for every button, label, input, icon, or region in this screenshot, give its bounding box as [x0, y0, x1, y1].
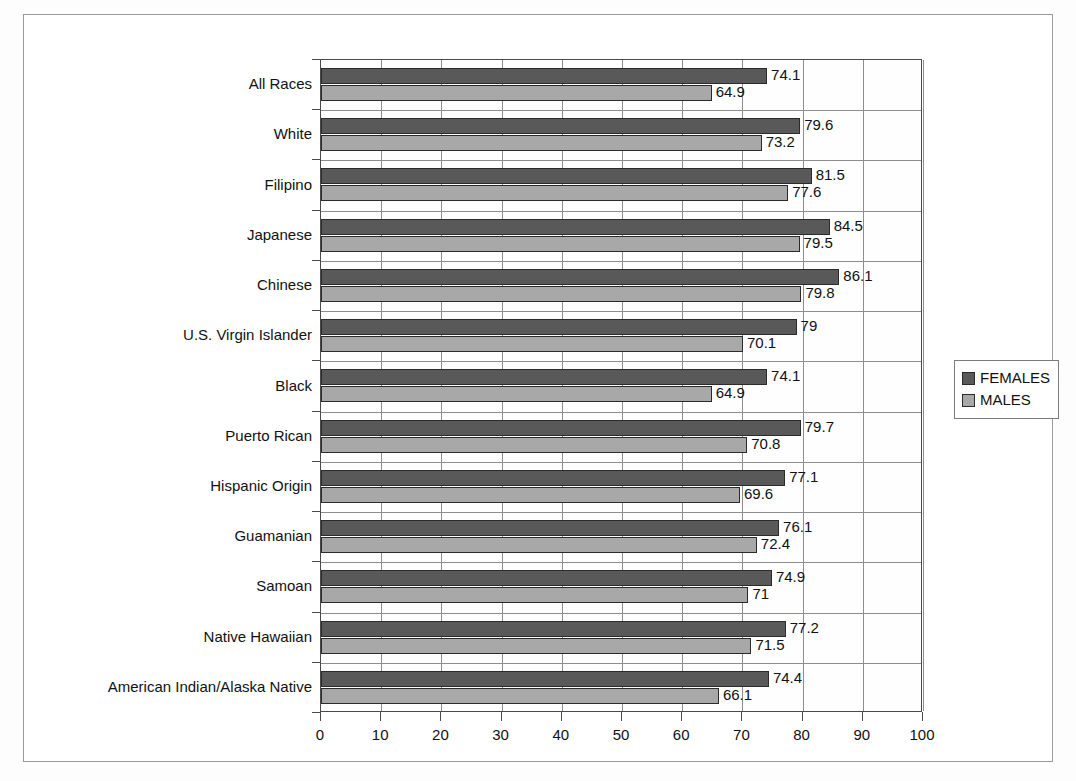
bar-value-females: 76.1	[783, 519, 812, 535]
bar-row: 81.577.6	[321, 160, 921, 210]
y-axis-label: Native Hawaiian	[24, 628, 312, 646]
y-axis-label: Hispanic Origin	[24, 477, 312, 495]
bar-males	[321, 437, 747, 453]
x-axis-ticks	[320, 712, 922, 721]
chart-figure: All RacesWhiteFilipinoJapaneseChineseU.S…	[0, 0, 1076, 781]
bar-value-females: 74.9	[776, 569, 805, 585]
y-axis-label: Guamanian	[24, 527, 312, 545]
y-axis-tick	[312, 360, 320, 361]
x-axis-tick-label: 10	[372, 725, 389, 745]
x-axis-tick	[561, 712, 562, 721]
bar-males	[321, 135, 762, 151]
bar-value-males: 71.5	[755, 637, 784, 653]
y-axis-tick	[312, 411, 320, 412]
bar-value-males: 70.1	[747, 335, 776, 351]
bar-value-females: 86.1	[843, 268, 872, 284]
bar-row: 74.164.9	[321, 361, 921, 411]
bar-row: 77.169.6	[321, 462, 921, 512]
legend-label: MALES	[980, 392, 1031, 408]
bar-males	[321, 487, 740, 503]
bar-value-males: 70.8	[751, 436, 780, 452]
bar-value-males: 64.9	[716, 84, 745, 100]
bar-females	[321, 269, 839, 285]
x-axis-tick	[501, 712, 502, 721]
x-axis-tick	[621, 712, 622, 721]
bar-value-males: 66.1	[723, 687, 752, 703]
bar-value-males: 69.6	[744, 486, 773, 502]
bar-value-females: 79.7	[805, 419, 834, 435]
bar-value-females: 74.4	[773, 670, 802, 686]
x-axis-tick-label: 60	[673, 725, 690, 745]
bar-males	[321, 236, 800, 252]
legend-label: FEMALES	[980, 370, 1050, 386]
bar-value-males: 79.8	[805, 285, 834, 301]
bar-value-females: 84.5	[834, 218, 863, 234]
x-axis-tick-labels: 0102030405060708090100	[320, 725, 922, 749]
bar-females	[321, 168, 812, 184]
y-axis-label: White	[24, 125, 312, 143]
bar-value-females: 77.2	[790, 620, 819, 636]
bar-value-males: 71	[752, 586, 769, 602]
bar-females	[321, 219, 830, 235]
bar-males	[321, 638, 751, 654]
bar-value-males: 72.4	[761, 536, 790, 552]
bar-females	[321, 621, 786, 637]
y-axis-category-labels: All RacesWhiteFilipinoJapaneseChineseU.S…	[24, 59, 312, 712]
x-axis-tick-label: 40	[552, 725, 569, 745]
x-axis-tick	[862, 712, 863, 721]
bar-value-females: 79.6	[804, 117, 833, 133]
y-axis-tick	[312, 612, 320, 613]
y-axis-tick	[312, 109, 320, 110]
y-axis-tick	[312, 210, 320, 211]
y-axis-tick	[312, 461, 320, 462]
x-axis-tick-label: 80	[793, 725, 810, 745]
legend-entry: MALES	[962, 389, 1050, 411]
y-axis-label: Japanese	[24, 226, 312, 244]
y-axis-tick	[312, 159, 320, 160]
bar-females	[321, 68, 767, 84]
legend-swatch-icon	[962, 372, 975, 385]
bar-row: 77.271.5	[321, 613, 921, 663]
bar-males	[321, 386, 712, 402]
bar-males	[321, 688, 719, 704]
bar-value-males: 77.6	[792, 184, 821, 200]
y-axis-label: American Indian/Alaska Native	[24, 678, 312, 696]
y-axis-tick	[312, 561, 320, 562]
bar-males	[321, 85, 712, 101]
figure-frame: All RacesWhiteFilipinoJapaneseChineseU.S…	[23, 14, 1053, 762]
x-axis-tick	[922, 712, 923, 721]
x-axis-tick-label: 30	[492, 725, 509, 745]
bar-row: 79.673.2	[321, 110, 921, 160]
bar-males	[321, 286, 801, 302]
bar-females	[321, 470, 785, 486]
bar-value-males: 73.2	[766, 134, 795, 150]
bar-row: 74.466.1	[321, 663, 921, 713]
y-axis-label: Black	[24, 377, 312, 395]
x-axis-tick-label: 0	[316, 725, 324, 745]
bar-males	[321, 336, 743, 352]
y-axis-tick	[312, 511, 320, 512]
y-axis-tick	[312, 662, 320, 663]
bar-males	[321, 587, 748, 603]
bar-row: 79.770.8	[321, 412, 921, 462]
x-axis-tick-label: 70	[733, 725, 750, 745]
bar-females	[321, 369, 767, 385]
y-axis-tick	[312, 260, 320, 261]
bar-females	[321, 420, 801, 436]
y-axis-label: Chinese	[24, 276, 312, 294]
x-axis-tick-label: 90	[853, 725, 870, 745]
bar-row: 76.172.4	[321, 512, 921, 562]
bar-value-females: 74.1	[771, 67, 800, 83]
bar-males	[321, 185, 788, 201]
bar-value-females: 81.5	[816, 167, 845, 183]
bar-row: 74.164.9	[321, 60, 921, 110]
y-axis-tick	[312, 712, 320, 713]
bar-value-females: 77.1	[789, 469, 818, 485]
bar-females	[321, 319, 797, 335]
gridline	[923, 60, 924, 711]
x-axis-tick	[440, 712, 441, 721]
y-axis-label: All Races	[24, 75, 312, 93]
bar-value-females: 79	[801, 318, 818, 334]
bar-row: 86.179.8	[321, 261, 921, 311]
bar-males	[321, 537, 757, 553]
